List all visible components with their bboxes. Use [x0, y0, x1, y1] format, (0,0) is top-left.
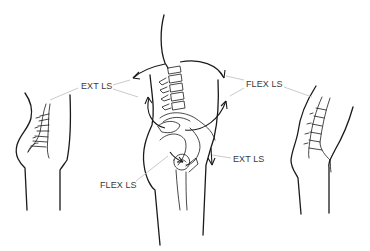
lumbar-spine-diagram: EXT LS FLEX LS FLEX LS EXT LS: [0, 0, 370, 251]
right-figure-flexion: [291, 86, 353, 214]
diagram-artwork: [0, 0, 370, 251]
left-figure-extension: [16, 93, 70, 210]
label-ext-ls-top: EXT LS: [81, 82, 112, 91]
leader-lines: [50, 76, 312, 181]
label-flex-ls-top: FLEX LS: [246, 80, 283, 89]
center-figure-spine-pelvis: [133, 15, 227, 245]
label-ext-ls-bottom: EXT LS: [233, 155, 264, 164]
label-flex-ls-bottom: FLEX LS: [100, 181, 137, 190]
